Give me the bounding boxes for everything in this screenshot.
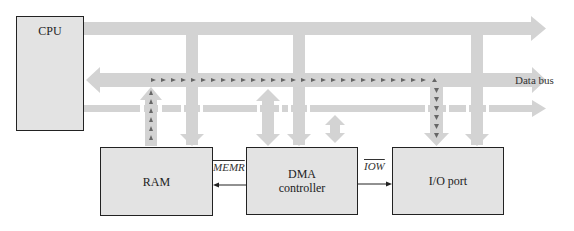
iow-signal-line: [358, 182, 392, 187]
iow-signal-label: IOW: [364, 160, 385, 172]
dma-databus-arrow: [256, 89, 280, 146]
cpu-label: CPU: [38, 24, 61, 38]
dma-label-line2: controller: [279, 181, 326, 195]
io-port-block: I/O port: [392, 147, 504, 215]
ram-label: RAM: [143, 175, 170, 189]
data-bus-label: Data bus: [515, 74, 554, 86]
dma-diagram: CPU RAM DMA controller I/O port Data bus…: [0, 0, 574, 231]
ram-block: RAM: [100, 147, 213, 216]
dma-controlbus-arrow: [325, 115, 345, 143]
cpu-block: CPU: [16, 16, 84, 131]
memr-signal-line: [213, 183, 246, 188]
memr-signal-label: MEMR: [213, 161, 245, 173]
io-port-label: I/O port: [429, 174, 467, 188]
dma-controller-block: DMA controller: [246, 147, 358, 215]
dma-label-line1: DMA: [279, 167, 326, 181]
